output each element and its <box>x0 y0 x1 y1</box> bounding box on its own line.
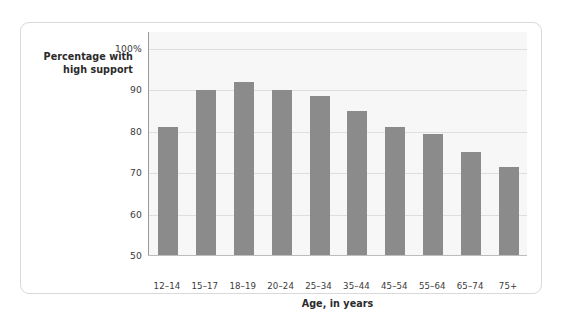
x-axis-tick-label: 15–17 <box>192 281 219 291</box>
x-axis-tick-label: 18–19 <box>229 281 256 291</box>
figure-card: Percentage with high support 50607080901… <box>20 22 542 294</box>
y-axis-tick-label: 100% <box>21 43 142 54</box>
x-axis-baseline <box>148 255 527 256</box>
bar <box>385 127 405 256</box>
y-axis-title: Percentage with high support <box>29 51 133 76</box>
bar <box>234 82 254 256</box>
bars-group <box>149 32 527 256</box>
y-axis-tick-label: 60 <box>21 209 142 220</box>
y-axis-tick-label: 80 <box>21 126 142 137</box>
y-axis-tick-label: 70 <box>21 167 142 178</box>
x-axis-tick-label: 75+ <box>499 281 517 291</box>
bar <box>272 90 292 256</box>
y-axis-title-line-2: high support <box>29 64 133 77</box>
x-axis-tick-label: 20–24 <box>267 281 294 291</box>
y-axis-tick-label: 90 <box>21 84 142 95</box>
bar <box>196 90 216 256</box>
bar <box>158 127 178 256</box>
bar <box>310 96 330 256</box>
bar <box>347 111 367 256</box>
y-axis-tick-label: 50 <box>21 250 142 261</box>
x-axis-tick-label: 55–64 <box>419 281 446 291</box>
plot-area <box>148 32 527 256</box>
x-axis-tick-label: 25–34 <box>305 281 332 291</box>
x-axis-tick-label: 45–54 <box>381 281 408 291</box>
x-axis-tick-label: 35–44 <box>343 281 370 291</box>
x-axis-tick-label: 65–74 <box>457 281 484 291</box>
bar <box>499 167 519 256</box>
bar <box>461 152 481 256</box>
x-axis-tick-label: 12–14 <box>154 281 181 291</box>
bar <box>423 134 443 256</box>
x-axis-title: Age, in years <box>148 298 527 309</box>
